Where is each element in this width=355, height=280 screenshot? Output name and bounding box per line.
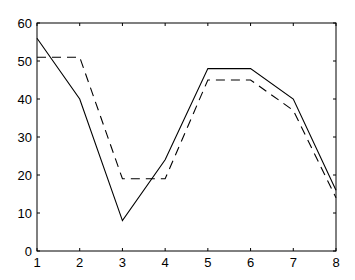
line-chart: 123456780102030405060 (0, 0, 355, 280)
y-tick-label: 40 (18, 92, 32, 107)
x-tick-label: 5 (204, 255, 211, 270)
y-tick-label: 60 (18, 16, 32, 31)
x-tick-label: 7 (290, 255, 297, 270)
x-tick-label: 6 (247, 255, 254, 270)
x-tick-label: 3 (119, 255, 126, 270)
y-tick-label: 20 (18, 168, 32, 183)
x-tick-label: 1 (33, 255, 40, 270)
x-tick-label: 8 (332, 255, 339, 270)
x-tick-label: 4 (162, 255, 169, 270)
plot-frame (37, 23, 336, 251)
x-tick-label: 2 (76, 255, 83, 270)
y-tick-label: 0 (25, 244, 32, 259)
y-tick-label: 30 (18, 130, 32, 145)
y-tick-label: 10 (18, 206, 32, 221)
series-line-dashed (37, 57, 336, 198)
series-line-solid (37, 38, 336, 220)
y-tick-label: 50 (18, 54, 32, 69)
